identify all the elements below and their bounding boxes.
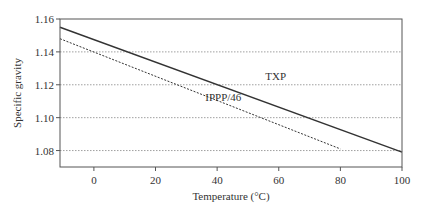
y-tick-label: 1.10 xyxy=(35,112,55,124)
y-tick-label: 1.08 xyxy=(35,145,55,157)
x-tick-label: 20 xyxy=(150,174,162,186)
x-tick-label: 0 xyxy=(91,174,97,186)
x-tick-label: 60 xyxy=(273,174,285,186)
data-series xyxy=(60,27,402,152)
x-tick-label: 100 xyxy=(394,174,411,186)
series-label: IPPP/46 xyxy=(205,91,242,103)
series-line-txp xyxy=(60,27,402,152)
series-line-ippp-46 xyxy=(60,39,340,149)
y-axis-label: Specific gravity xyxy=(11,58,23,128)
series-label: TXP xyxy=(265,70,286,82)
y-tick-label: 1.16 xyxy=(35,13,55,25)
x-tick-label: 40 xyxy=(212,174,224,186)
x-tick-label: 80 xyxy=(335,174,347,186)
specific-gravity-chart: 1.081.101.121.141.16 020406080100 TXPIPP… xyxy=(0,0,428,214)
y-tick-label: 1.12 xyxy=(35,79,54,91)
y-tick-label: 1.14 xyxy=(35,46,55,58)
x-axis-ticks: 020406080100 xyxy=(91,167,411,186)
y-axis-ticks: 1.081.101.121.141.16 xyxy=(35,13,60,157)
x-axis-label: Temperature (°C) xyxy=(192,190,270,203)
series-labels: TXPIPPP/46 xyxy=(205,70,286,103)
